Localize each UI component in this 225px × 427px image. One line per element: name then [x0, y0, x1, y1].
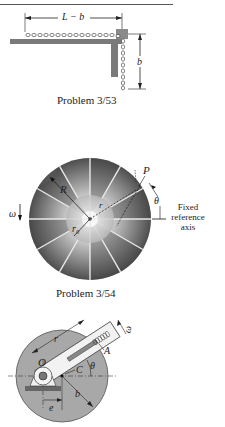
label-radius-R: R	[60, 183, 67, 195]
label-r0: r₀	[72, 223, 79, 234]
label-l-minus-b: L − b	[62, 11, 84, 22]
caption-problem-3-54: Problem 3/54	[56, 287, 116, 299]
figure-slotted-arm-disk: r ω O A C θ b e	[0, 300, 225, 427]
figure-problem-3-54: ω R r r₀ P θ Fixed reference axis Proble…	[0, 140, 225, 300]
label-O: O	[38, 356, 46, 368]
label-fixed-reference-axis: Fixed reference axis	[166, 202, 210, 232]
label-omega: ω	[9, 208, 16, 219]
label-r: r	[99, 200, 103, 210]
label-A: A	[104, 345, 110, 356]
label-r: r	[54, 333, 58, 344]
slotted-arm-on-disk-diagram	[0, 300, 225, 427]
label-b: b	[75, 388, 80, 399]
figure-problem-3-53: L − b b Problem 3/53	[0, 0, 225, 120]
label-C: C	[76, 364, 83, 375]
label-b: b	[137, 56, 142, 67]
caption-problem-3-53: Problem 3/53	[57, 94, 117, 106]
label-theta: θ	[90, 360, 95, 371]
label-point-P: P	[143, 164, 150, 176]
label-theta: θ	[154, 195, 159, 206]
label-e: e	[49, 402, 53, 413]
